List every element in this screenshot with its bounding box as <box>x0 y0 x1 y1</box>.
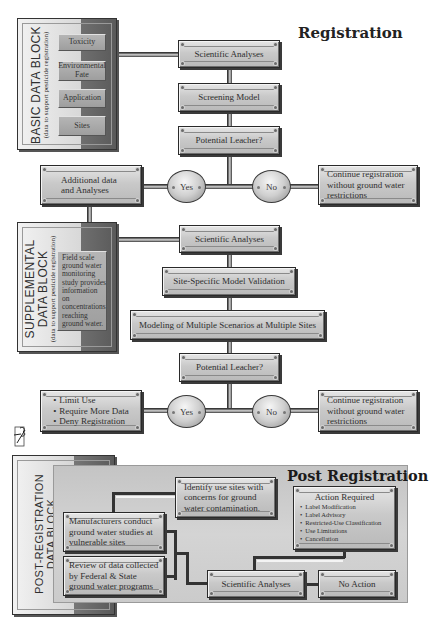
action-required-box: Action Required Label Modification Label… <box>293 486 396 550</box>
connector-trace <box>116 496 176 498</box>
scientific-analyses-box-2: Scientific Analyses <box>179 225 280 253</box>
basic-data-block-title: BASIC DATA BLOCK (data to support pestic… <box>30 25 51 145</box>
scientific-analyses-box: Scientific Analyses <box>178 40 280 68</box>
action-required-list: Label Modification Label Advisory Restri… <box>300 503 389 542</box>
identify-use-sites-box: Identify use sites with concerns for gro… <box>175 477 276 518</box>
continue-registration-box-2: Continue registration without ground wat… <box>318 390 418 432</box>
basic-item-toxicity: Toxicity <box>58 34 106 51</box>
potential-leacher-box-2: Potential Leacher? <box>179 353 280 382</box>
connector-trace <box>186 582 208 585</box>
restriction-actions-box: Limit Use Require More Data Deny Registr… <box>40 390 142 432</box>
basic-item-sites: Sites <box>58 116 106 136</box>
yes-decision-oval: Yes <box>167 170 206 203</box>
connector-trace <box>165 575 177 578</box>
connector-pipe <box>87 205 92 223</box>
site-specific-model-box: Site-Specific Model Validation <box>162 267 296 296</box>
connector-trace <box>253 556 345 559</box>
supplemental-data-block-title: SUPPLEMENTAL DATA BLOCK (data to support… <box>24 233 58 345</box>
registration-title: Registration <box>298 24 403 42</box>
post-registration-title: Post Registration <box>287 467 428 484</box>
potential-leacher-box: Potential Leacher? <box>178 126 280 155</box>
connector-trace <box>343 550 346 558</box>
action-required-content: Action Required Label Modification Label… <box>294 487 395 542</box>
connector-trace <box>112 492 115 513</box>
connector-pipe <box>227 253 232 268</box>
connector-pipe <box>117 52 179 57</box>
scientific-analyses-box-3: Scientific Analyses <box>207 570 305 598</box>
connector-trace <box>305 583 319 586</box>
basic-item-environmental-fate: Environmental Fate <box>58 61 106 81</box>
signature-logo-icon <box>14 424 28 447</box>
connector-trace <box>257 560 343 562</box>
connector-pipe <box>117 237 180 242</box>
review-data-box: Review of data collected by Federal & St… <box>63 556 165 596</box>
connector-pipe <box>227 112 232 127</box>
basic-item-application: Application <box>58 89 106 108</box>
basic-data-block: BASIC DATA BLOCK (data to support pestic… <box>17 18 117 150</box>
connector-pipe <box>227 68 232 84</box>
yes-decision-oval-2: Yes <box>167 395 206 428</box>
no-decision-oval-2: No <box>252 395 291 428</box>
connector-trace <box>176 552 188 555</box>
connector-trace <box>174 530 177 580</box>
screening-model-box: Screening Model <box>178 83 280 112</box>
no-action-box: No Action <box>318 570 396 598</box>
multiple-scenarios-box: Modeling of Multiple Scenarios at Multip… <box>130 310 325 340</box>
connector-trace <box>112 492 176 495</box>
no-decision-oval: No <box>252 170 291 203</box>
manufacturers-studies-box: Manufacturers conduct ground water studi… <box>63 512 165 552</box>
connector-pipe <box>227 382 232 410</box>
restriction-actions-list: Limit Use Require More Data Deny Registr… <box>45 395 137 426</box>
connector-trace <box>186 552 189 584</box>
supplemental-description: Field scale ground water monitoring stud… <box>57 251 107 331</box>
additional-data-box: Additional data and Analyses <box>40 165 142 205</box>
connector-pipe <box>227 296 232 311</box>
supplemental-data-block: SUPPLEMENTAL DATA BLOCK (data to support… <box>17 222 117 352</box>
continue-registration-box: Continue registration without ground wat… <box>318 165 418 205</box>
connector-pipe <box>227 340 232 354</box>
connector-pipe <box>227 155 232 186</box>
